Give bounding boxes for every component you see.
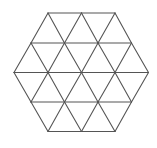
grid-edge bbox=[115, 73, 132, 103]
grid-lines bbox=[14, 13, 149, 132]
grid-edge bbox=[31, 43, 48, 73]
grid-edge bbox=[82, 73, 99, 103]
grid-edge bbox=[115, 102, 132, 132]
grid-edge bbox=[48, 102, 65, 132]
grid-edge bbox=[98, 13, 115, 43]
grid-edge bbox=[31, 102, 48, 132]
grid-edge bbox=[48, 73, 65, 103]
grid-edge bbox=[82, 102, 99, 132]
grid-edge bbox=[65, 13, 82, 43]
grid-edge bbox=[132, 43, 149, 73]
hexagon-triangle-grid bbox=[0, 0, 157, 148]
grid-edge bbox=[65, 73, 82, 103]
grid-edge bbox=[115, 13, 132, 43]
grid-edge bbox=[132, 73, 149, 103]
grid-edge bbox=[48, 43, 65, 73]
grid-edge bbox=[48, 13, 65, 43]
grid-edge bbox=[82, 13, 99, 43]
grid-edge bbox=[98, 102, 115, 132]
grid-edge bbox=[14, 43, 31, 73]
grid-edge bbox=[65, 102, 82, 132]
grid-edge bbox=[31, 73, 48, 103]
grid-edge bbox=[98, 73, 115, 103]
grid-edge bbox=[65, 43, 82, 73]
grid-edge bbox=[98, 43, 115, 73]
grid-edge bbox=[115, 43, 132, 73]
grid-edge bbox=[31, 13, 48, 43]
grid-edge bbox=[82, 43, 99, 73]
grid-edge bbox=[14, 73, 31, 103]
